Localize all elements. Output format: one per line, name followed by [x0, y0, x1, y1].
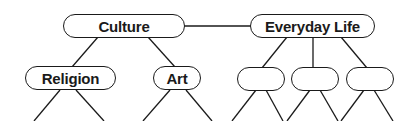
node-art-label: Art: [166, 70, 187, 87]
node-blank-1: [237, 67, 285, 91]
node-culture-label: Culture: [98, 18, 149, 35]
node-art: Art: [153, 66, 201, 90]
node-everyday-life-label: Everyday Life: [265, 18, 360, 35]
node-blank-2: [291, 67, 339, 91]
node-religion-label: Religion: [42, 70, 100, 87]
node-blank-3: [346, 67, 394, 91]
node-religion: Religion: [25, 66, 116, 90]
node-everyday-life: Everyday Life: [250, 14, 375, 38]
node-culture: Culture: [63, 14, 185, 38]
